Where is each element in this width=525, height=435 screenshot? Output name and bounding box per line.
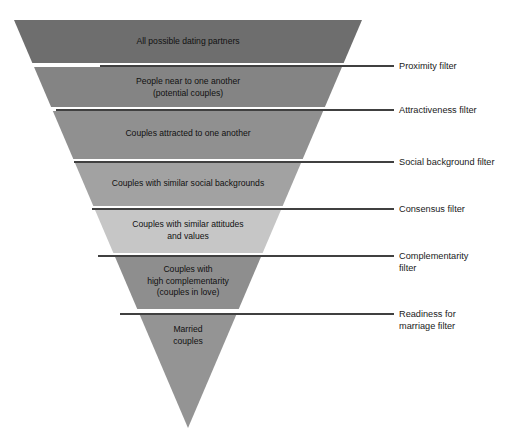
filter-label-line: Complementarity <box>399 251 469 261</box>
filter-label-line: Consensus filter <box>399 204 465 214</box>
band-label-all-possible-dating-partners: All possible dating partners <box>136 36 239 46</box>
filter-label-social-background-filter: Social background filter <box>399 157 495 167</box>
band-label-line: couples <box>173 336 203 346</box>
band-label-couples-attracted-to-one-another: Couples attracted to one another <box>125 128 250 138</box>
filter-label-line: marriage filter <box>399 321 455 331</box>
filter-label-attractiveness-filter: Attractiveness filter <box>399 105 477 115</box>
band-label-line: Couples with similar social backgrounds <box>112 178 264 188</box>
filter-label-line: Social background filter <box>399 157 495 167</box>
band-label-married-couples: Marriedcouples <box>173 324 203 346</box>
funnel-diagram: All possible dating partnersPeople near … <box>0 0 525 435</box>
band-label-line: All possible dating partners <box>136 36 239 46</box>
filter-label-line: Proximity filter <box>399 61 457 71</box>
filter-label-line: Readiness for <box>399 309 456 319</box>
band-label-line: (potential couples) <box>153 88 223 98</box>
band-label-line: high complementarity <box>147 276 229 286</box>
band-label-line: People near to one another <box>136 76 240 86</box>
band-label-line: Couples with similar attitudes <box>132 219 243 229</box>
band-label-line: Couples with <box>163 264 212 274</box>
band-label-couples-with-similar-social-backgrounds: Couples with similar social backgrounds <box>112 178 264 188</box>
band-label-line: and values <box>167 231 209 241</box>
band-label-line: Married <box>173 324 202 334</box>
band-label-line: Couples attracted to one another <box>125 128 250 138</box>
filter-label-line: Attractiveness filter <box>399 105 477 115</box>
band-label-line: (couples in love) <box>157 287 220 297</box>
filter-label-proximity-filter: Proximity filter <box>399 61 457 71</box>
filter-label-line: filter <box>399 263 416 273</box>
filter-label-consensus-filter: Consensus filter <box>399 204 465 214</box>
